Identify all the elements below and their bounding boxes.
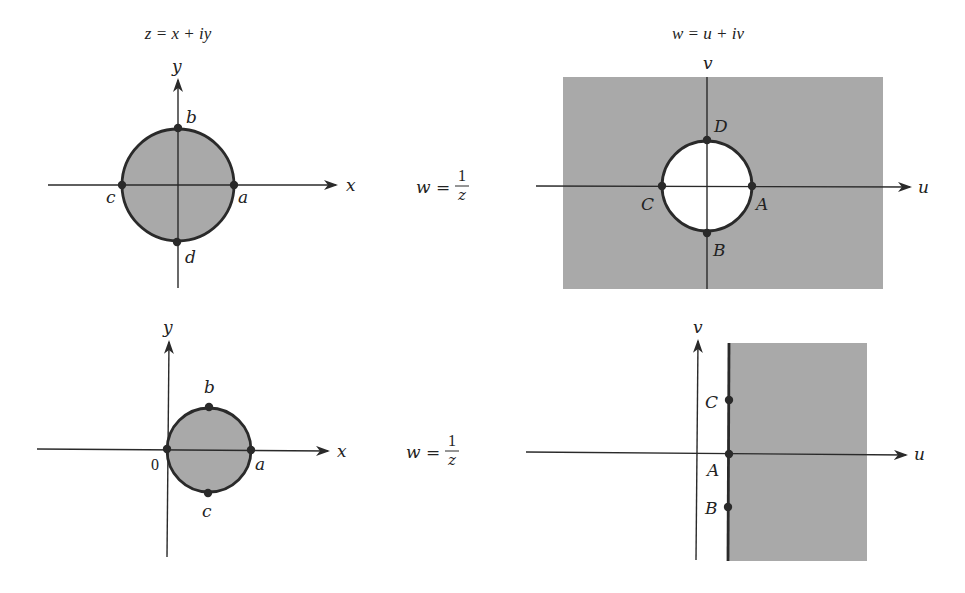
point-origin bbox=[163, 445, 171, 453]
point-A bbox=[748, 182, 756, 190]
x-axis-label: x bbox=[346, 175, 356, 195]
label-d: d bbox=[185, 247, 196, 267]
label-b: b bbox=[204, 377, 215, 397]
top-right-w-plane: u v A B C D bbox=[536, 53, 929, 289]
top-left-z-plane: x y a b c d bbox=[48, 56, 356, 288]
label-B: B bbox=[704, 498, 718, 518]
label-C: C bbox=[705, 392, 718, 412]
u-axis-label: u bbox=[914, 444, 925, 464]
mapping-denominator: z bbox=[447, 451, 456, 469]
mapping-label-bottom: w = 1 z bbox=[406, 432, 459, 469]
bottom-left-z-plane: x y 0 a b c bbox=[37, 317, 347, 557]
point-B bbox=[724, 503, 732, 511]
point-B bbox=[703, 229, 711, 237]
point-C bbox=[658, 182, 666, 190]
y-axis-label: y bbox=[171, 56, 182, 76]
label-C: C bbox=[641, 194, 654, 214]
mapping-numerator: 1 bbox=[448, 432, 456, 449]
label-a: a bbox=[238, 187, 248, 207]
point-A bbox=[725, 450, 733, 458]
w-plane-title: w = u + iv bbox=[672, 24, 745, 43]
label-c: c bbox=[106, 187, 116, 207]
x-axis bbox=[37, 449, 328, 451]
mapping-w-eq: w = bbox=[406, 442, 440, 462]
point-a bbox=[230, 181, 238, 189]
point-C bbox=[725, 396, 733, 404]
z-plane-title: z = x + iy bbox=[144, 24, 212, 43]
point-D bbox=[703, 136, 711, 144]
point-b bbox=[205, 403, 213, 411]
u-axis-label: u bbox=[918, 177, 929, 197]
x-axis-label: x bbox=[337, 441, 347, 461]
y-axis-label: y bbox=[162, 317, 173, 337]
point-b bbox=[174, 124, 182, 132]
point-a bbox=[247, 446, 255, 454]
bottom-right-w-plane: u v A B C bbox=[526, 317, 925, 561]
label-c: c bbox=[202, 501, 212, 521]
label-D: D bbox=[713, 116, 728, 136]
v-axis-label: v bbox=[703, 53, 713, 73]
label-B: B bbox=[712, 240, 726, 260]
mapping-denominator: z bbox=[457, 186, 466, 204]
point-c bbox=[118, 181, 126, 189]
shaded-half-plane bbox=[729, 343, 867, 561]
point-c bbox=[204, 489, 212, 497]
conformal-mapping-diagram: z = x + iy w = u + iv x y a b c d w = 1 … bbox=[0, 0, 965, 593]
mapping-label-top: w = 1 z bbox=[416, 167, 469, 204]
label-A: A bbox=[705, 460, 719, 480]
mapping-w-eq: w = bbox=[416, 177, 450, 197]
origin-label: 0 bbox=[151, 456, 159, 473]
v-axis bbox=[696, 341, 698, 560]
label-a: a bbox=[255, 454, 265, 474]
v-axis-label: v bbox=[693, 317, 703, 337]
label-b: b bbox=[186, 107, 197, 127]
point-d bbox=[173, 238, 181, 246]
label-A: A bbox=[754, 194, 768, 214]
mapping-numerator: 1 bbox=[458, 167, 466, 184]
